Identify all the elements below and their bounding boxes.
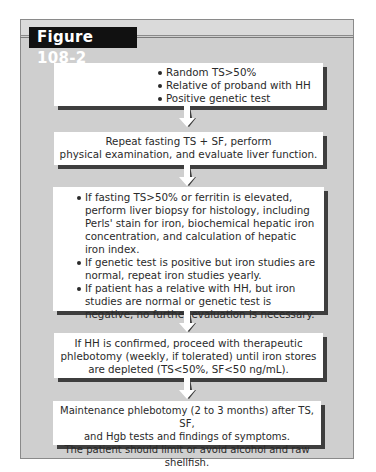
step-5-line: Maintenance phlebotomy (2 to 3 months) a… <box>55 404 319 430</box>
step-4-line: are depleted (TS<50%, SF<50 ng/mL). <box>58 363 319 376</box>
step-5-line: The patient should limit or avoid alcoho… <box>55 443 319 469</box>
step-2-box: Repeat fasting TS + SF, perform physical… <box>54 132 323 165</box>
down-arrow-icon <box>177 378 199 400</box>
step-2-line: Repeat fasting TS + SF, perform <box>58 135 319 148</box>
step-5-line: and Hgb tests and findings of symptoms. <box>55 430 319 443</box>
list-item: If fasting TS>50% or ferritin is elevate… <box>77 191 318 256</box>
step-5-box: Maintenance phlebotomy (2 to 3 months) a… <box>53 401 321 445</box>
figure-label: Figure 108-2 <box>29 27 137 48</box>
list-item: Positive genetic test <box>158 92 323 105</box>
step-1-box: Random TS>50% Relative of proband with H… <box>54 63 323 106</box>
step-3-list: If fasting TS>50% or ferritin is elevate… <box>77 191 318 321</box>
list-item: If genetic test is positive but iron stu… <box>77 256 318 282</box>
down-arrow-icon <box>177 106 199 128</box>
step-4-box: If HH is confirmed, proceed with therape… <box>54 333 323 378</box>
step-1-list: Random TS>50% Relative of proband with H… <box>158 66 323 105</box>
down-arrow-icon <box>177 165 199 187</box>
step-3-box: If fasting TS>50% or ferritin is elevate… <box>53 187 324 311</box>
step-4-line: phlebotomy (weekly, if tolerated) until … <box>58 350 319 363</box>
step-2-line: physical examination, and evaluate liver… <box>58 148 319 161</box>
step-4-line: If HH is confirmed, proceed with therape… <box>58 337 319 350</box>
list-item: Random TS>50% <box>158 66 323 79</box>
down-arrow-icon <box>177 311 199 333</box>
list-item: Relative of proband with HH <box>158 79 323 92</box>
